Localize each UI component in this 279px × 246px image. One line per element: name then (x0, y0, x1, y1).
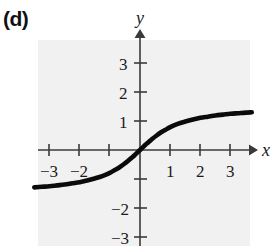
x-label-pos1: 1 (166, 163, 175, 180)
y-label-neg2: −2 (111, 201, 129, 218)
y-label-pos2: 2 (119, 85, 128, 102)
y-axis-label: y (136, 9, 144, 27)
y-label-pos3: 3 (119, 56, 128, 73)
plot-graphics (0, 0, 279, 246)
x-axis-label: x (262, 141, 270, 159)
y-label-neg3: −3 (111, 230, 129, 246)
figure-panel-d: (d) −3 −2 1 2 3 3 2 1 −2 −3 y x (0, 0, 279, 246)
x-label-neg2: −2 (70, 163, 88, 180)
x-label-pos2: 2 (196, 163, 205, 180)
y-label-pos1: 1 (119, 114, 128, 131)
x-label-pos3: 3 (226, 163, 235, 180)
y-axis-arrow-icon (135, 29, 146, 38)
x-axis-arrow-icon (249, 145, 258, 156)
x-label-neg3: −3 (40, 163, 58, 180)
